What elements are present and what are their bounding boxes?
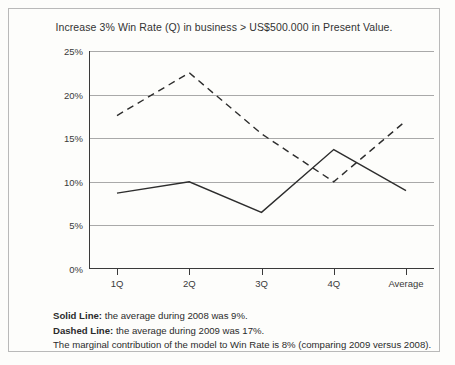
footnote-text-solid: the average during 2008 was 9%. bbox=[102, 310, 248, 321]
x-tick-mark bbox=[189, 269, 190, 275]
y-tick-label: 15% bbox=[64, 133, 83, 144]
footnote-line-marginal: The marginal contribution of the model t… bbox=[53, 338, 443, 353]
footnote: Solid Line: the average during 2008 was … bbox=[53, 309, 443, 353]
figure-frame: Increase 3% Win Rate (Q) in business > U… bbox=[8, 8, 440, 352]
x-tick-mark bbox=[406, 269, 407, 275]
y-tick-label: 5% bbox=[69, 220, 83, 231]
x-tick-label: 2Q bbox=[183, 278, 196, 289]
x-tick-mark bbox=[334, 269, 335, 275]
footnote-line-solid: Solid Line: the average during 2008 was … bbox=[53, 309, 443, 324]
x-tick-mark bbox=[117, 269, 118, 275]
footnote-lead-solid: Solid Line: bbox=[53, 310, 102, 321]
y-tick-label: 10% bbox=[64, 176, 83, 187]
x-tick-label: 1Q bbox=[111, 278, 124, 289]
plot-area: 0%5%10%15%20%25% 1Q2Q3Q4QAverage bbox=[89, 51, 434, 269]
chart-title: Increase 3% Win Rate (Q) in business > U… bbox=[9, 21, 439, 33]
x-tick-mark bbox=[262, 269, 263, 275]
y-tick-label: 25% bbox=[64, 46, 83, 57]
y-tick-label: 0% bbox=[69, 264, 83, 275]
x-tick-label: 3Q bbox=[255, 278, 268, 289]
x-tick-label: 4Q bbox=[327, 278, 340, 289]
footnote-text-dashed: the average during 2009 was 17%. bbox=[113, 325, 264, 336]
y-tick-label: 20% bbox=[64, 89, 83, 100]
series-line-solid bbox=[117, 150, 406, 213]
x-tick-label: Average bbox=[388, 278, 423, 289]
footnote-lead-dashed: Dashed Line: bbox=[53, 325, 113, 336]
series-lines bbox=[89, 51, 434, 269]
footnote-line-dashed: Dashed Line: the average during 2009 was… bbox=[53, 324, 443, 339]
